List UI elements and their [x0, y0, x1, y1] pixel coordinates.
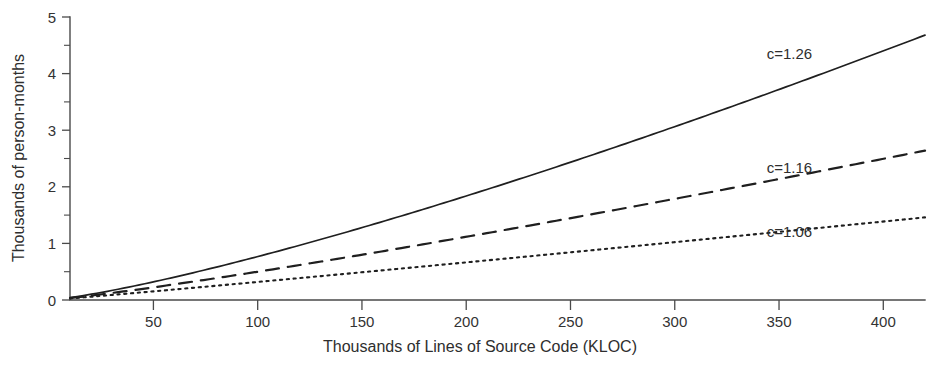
y-tick-label: 0 [48, 292, 56, 309]
x-tick-label: 300 [662, 313, 687, 330]
y-tick-label: 4 [48, 65, 56, 82]
x-tick-label: 100 [245, 313, 270, 330]
y-axis-title: Thousands of person-months [10, 54, 27, 262]
x-tick-label: 150 [349, 313, 374, 330]
y-axis-ticks [62, 17, 70, 300]
series-label-c-1-16: c=1.16 [767, 159, 812, 176]
y-tick-label: 1 [48, 235, 56, 252]
x-axis-ticks [153, 300, 883, 310]
y-tick-label: 5 [48, 9, 56, 26]
x-axis-title: Thousands of Lines of Source Code (KLOC) [323, 338, 637, 355]
x-tick-label: 400 [871, 313, 896, 330]
y-axis-tick-labels: 012345 [48, 9, 56, 309]
x-axis-tick-labels: 50100150200250300350400 [145, 313, 896, 330]
x-tick-label: 200 [454, 313, 479, 330]
series-label-c-1-06: c=1.06 [767, 223, 812, 240]
y-tick-label: 3 [48, 122, 56, 139]
effort-vs-kloc-chart: 012345 50100150200250300350400 c=1.26c=1… [0, 0, 943, 369]
x-tick-label: 350 [767, 313, 792, 330]
y-tick-label: 2 [48, 178, 56, 195]
x-tick-label: 50 [145, 313, 162, 330]
series-label-c-1-26: c=1.26 [767, 45, 812, 62]
chart-figure: 012345 50100150200250300350400 c=1.26c=1… [0, 0, 943, 369]
series-labels-group: c=1.26c=1.16c=1.06 [767, 45, 812, 240]
x-tick-label: 250 [558, 313, 583, 330]
